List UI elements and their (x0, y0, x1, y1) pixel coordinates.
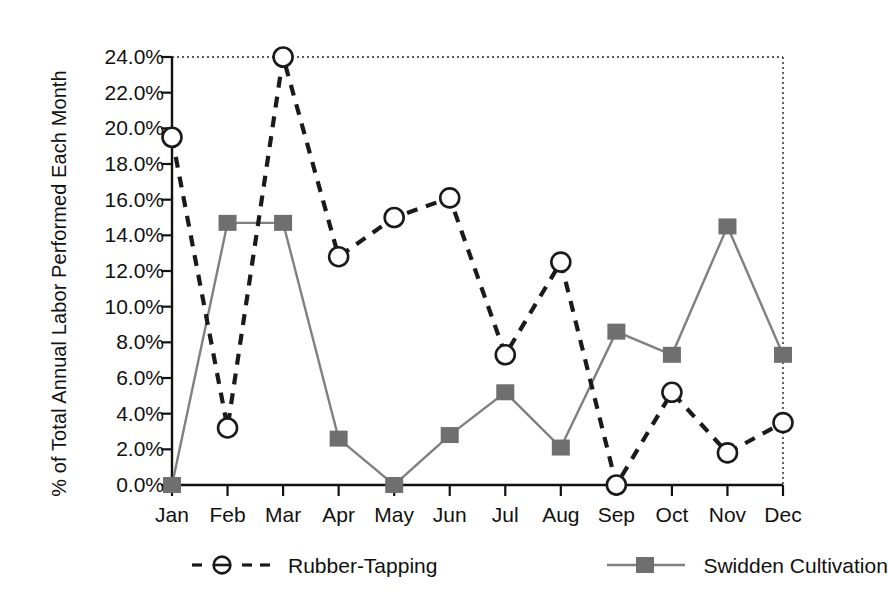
legend-label-rubber-tapping: Rubber-Tapping (288, 555, 437, 576)
chart-legend: Rubber-Tapping Swidden Cultivation (172, 548, 783, 582)
x-axis-tick-label: Aug (542, 504, 579, 525)
legend-marker-open-circle-dashed (190, 555, 272, 575)
x-axis-tick-label: Jun (433, 504, 467, 525)
legend-item-rubber-tapping: Rubber-Tapping (190, 555, 437, 576)
legend-marker-filled-square-solid (605, 555, 687, 575)
x-axis-tick-label: Feb (209, 504, 245, 525)
x-axis-tick-label: Oct (656, 504, 689, 525)
x-axis-tick-label: Sep (598, 504, 635, 525)
x-axis-tick-label: May (374, 504, 414, 525)
x-axis-tick-label: Mar (265, 504, 301, 525)
legend-label-swidden-cultivation: Swidden Cultivation (703, 555, 887, 576)
x-axis-tick-label: Apr (322, 504, 355, 525)
x-axis-tick-label: Jul (492, 504, 519, 525)
legend-item-swidden-cultivation: Swidden Cultivation (605, 555, 887, 576)
x-axis-tick-label: Nov (709, 504, 746, 525)
x-axis-tick-label: Dec (764, 504, 801, 525)
x-axis-tick-label: Jan (155, 504, 189, 525)
